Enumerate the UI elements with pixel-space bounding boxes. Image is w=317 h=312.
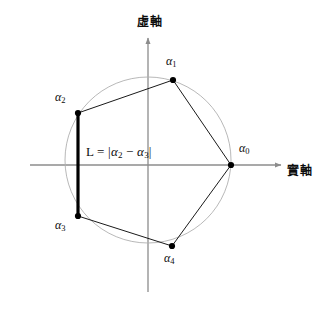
real-axis-label: 實軸 [287,165,312,177]
alpha1-subscript: 1 [172,59,176,69]
vertex-label-alpha2: α2 [55,91,66,104]
edge-alpha1-alpha2 [78,80,173,113]
alpha3-subscript: 3 [61,223,65,233]
edge-alpha4-alpha0 [172,165,231,246]
formula-equals: = [94,144,108,159]
imaginary-axis-label: 虛軸 [137,16,162,28]
alpha4-subscript: 4 [170,256,174,266]
diagram-svg [0,0,317,312]
alpha2-subscript: 2 [61,95,65,105]
formula-minus: − [123,144,137,159]
formula-close-bar: | [149,144,152,159]
formula-term1-base: α [111,144,118,159]
edge-alpha3-alpha4 [78,216,172,246]
vertex-label-alpha3: α3 [55,219,66,232]
formula-L-definition: L = |α2 − α3| [86,145,152,160]
vertex-marker-alpha4 [169,243,175,249]
vertex-marker-alpha3 [75,213,81,219]
vertex-label-alpha4: α4 [164,252,175,265]
formula-lead: L [86,144,94,159]
vertex-label-alpha0: α0 [239,142,250,155]
alpha0-subscript: 0 [245,146,249,156]
figure-canvas: 虛軸 實軸 α0 α1 α2 α3 α4 L = |α2 − α3| [0,0,317,312]
vertex-marker-alpha1 [170,77,176,83]
vertex-marker-alpha2 [75,110,81,116]
vertex-label-alpha1: α1 [166,55,177,68]
vertex-marker-alpha0 [228,162,234,168]
